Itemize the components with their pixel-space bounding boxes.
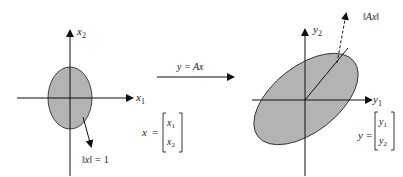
right-bracket bbox=[179, 113, 182, 152]
right-bracket bbox=[391, 112, 394, 150]
transform-label: y = Ax bbox=[176, 61, 204, 72]
right-figure: y2 y1 ‖Ax‖ y = y1 y2 bbox=[238, 11, 394, 176]
linear-map-diagram: x2 x1 ‖x‖ = 1 x = x1 x2 y = Ax y2 y1 ‖Ax… bbox=[0, 0, 403, 177]
norm-pointer-arrow bbox=[83, 117, 91, 146]
vector-entry-2: y2 bbox=[378, 135, 387, 148]
x-column-vector: x = x1 x2 bbox=[141, 113, 182, 152]
transform-arrow-group: y = Ax bbox=[157, 61, 233, 77]
x1-axis-label: x1 bbox=[135, 91, 145, 106]
equals-sign: = bbox=[366, 129, 372, 141]
norm-ax-label: ‖Ax‖ bbox=[363, 11, 379, 22]
y2-axis-label: y2 bbox=[312, 23, 322, 38]
vector-entry-1: y1 bbox=[378, 116, 387, 129]
vector-name: x bbox=[141, 126, 147, 138]
y-column-vector: y = y1 y2 bbox=[357, 112, 394, 150]
left-bracket bbox=[163, 113, 166, 152]
equals-sign: = bbox=[152, 126, 158, 138]
norm-x-label: ‖x‖ = 1 bbox=[82, 154, 109, 165]
x2-axis-label: x2 bbox=[76, 25, 86, 40]
vector-name: y bbox=[357, 129, 363, 141]
left-figure: x2 x1 ‖x‖ = 1 x = x1 x2 bbox=[17, 25, 182, 176]
y1-axis-label: y1 bbox=[372, 93, 382, 108]
vector-entry-2: x2 bbox=[166, 136, 175, 149]
left-bracket bbox=[375, 112, 378, 150]
vector-entry-1: x1 bbox=[166, 117, 175, 130]
